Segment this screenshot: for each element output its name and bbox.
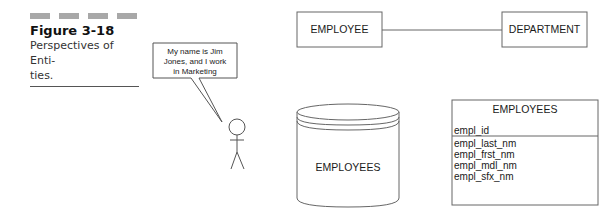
table-attribute: empl_mdl_nm [454,160,517,171]
speech-line-1: My name is Jim [167,47,223,56]
entity-employee-label: EMPLOYEE [311,23,369,35]
table-attribute: empl_last_nm [454,138,516,149]
speech-bubble: My name is Jim Jones, and I work in Mark… [153,43,237,122]
table-name: EMPLOYEES [493,103,558,115]
diagram-canvas: My name is Jim Jones, and I work in Mark… [0,0,612,214]
speech-line-2: Jones, and I work [164,57,228,66]
table-primary-key: empl_id [454,125,489,136]
person-stick-figure-icon [229,119,245,169]
table-schema: EMPLOYEES empl_id empl_last_nm empl_frst… [452,100,598,205]
er-diagram: EMPLOYEE DEPARTMENT [297,12,587,47]
table-attribute: empl_sfx_nm [454,171,513,182]
speech-line-3: in Marketing [173,67,217,76]
database-cylinder-icon: EMPLOYEES [297,104,399,207]
table-attribute: empl_frst_nm [454,149,515,160]
database-label: EMPLOYEES [316,161,381,173]
entity-department-label: DEPARTMENT [509,23,581,35]
